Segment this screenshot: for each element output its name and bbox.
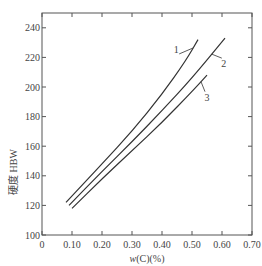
x-axis-label: w(C)(%) — [130, 253, 165, 265]
y-tick-label: 200 — [25, 82, 40, 93]
y-axis-label: 硬度 HBW — [7, 149, 19, 195]
y-axis: 100120140160180200220240 — [25, 22, 252, 240]
x-axis: 00.100.200.300.400.500.600.70 — [40, 13, 261, 250]
y-tick-label: 220 — [25, 52, 40, 63]
y-tick-label: 180 — [25, 111, 40, 122]
y-tick-label: 120 — [25, 200, 40, 211]
x-tick-label: 0.20 — [93, 239, 111, 250]
x-tick-label: 0 — [40, 239, 45, 250]
y-tick-label: 100 — [25, 230, 40, 241]
y-tick-label: 240 — [25, 22, 40, 33]
curve-label-2: 2 — [221, 58, 226, 69]
curve-label-1: 1 — [174, 44, 179, 55]
curve-2 — [69, 38, 225, 205]
x-tick-label: 0.10 — [63, 239, 81, 250]
curve-1 — [66, 40, 198, 203]
curve-3 — [72, 75, 207, 208]
x-tick-label: 0.60 — [213, 239, 231, 250]
y-tick-label: 160 — [25, 141, 40, 152]
chart: 100120140160180200220240 00.100.200.300.… — [0, 0, 262, 266]
x-tick-label: 0.40 — [153, 239, 171, 250]
curve-label-3: 3 — [205, 92, 210, 103]
x-tick-label: 0.30 — [123, 239, 141, 250]
x-tick-label: 0.50 — [183, 239, 201, 250]
data-series: 123 — [66, 38, 226, 208]
y-tick-label: 140 — [25, 170, 40, 181]
plot-frame — [42, 13, 252, 235]
x-tick-label: 0.70 — [243, 239, 261, 250]
